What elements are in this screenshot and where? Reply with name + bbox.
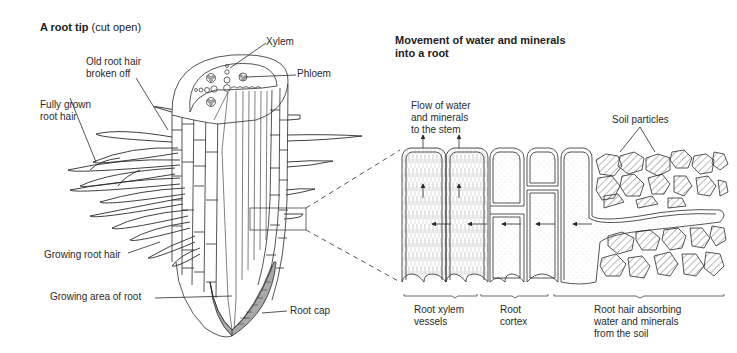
label-soil-particles: Soil particles <box>612 114 669 126</box>
xylem-vessels <box>402 135 488 282</box>
label-root-cap: Root cap <box>290 305 330 317</box>
label-xylem: Xylem <box>266 36 294 48</box>
label-flow: Flow of water and minerals to the stem <box>411 100 470 136</box>
label-phloem: Phloem <box>297 68 331 80</box>
root-hairs-right <box>284 115 362 219</box>
label-root-xylem-vessels: Root xylem vessels <box>414 304 464 328</box>
cortex-left <box>172 96 218 298</box>
zoom-dashed-top <box>306 150 400 208</box>
water-movement-drawing <box>402 127 728 298</box>
label-root-cortex: Root cortex <box>500 304 527 328</box>
label-growing-root-hair: Growing root hair <box>44 249 121 261</box>
label-fully-grown-root-hair: Fully grown root hair <box>40 99 91 123</box>
zoom-dashed-bottom <box>306 230 400 282</box>
panel-a-title: A root tip (cut open) <box>40 21 141 34</box>
cortex-cells <box>490 148 558 282</box>
panel-a-heading: A root tip <box>40 21 88 33</box>
panel-a-subtitle: (cut open) <box>92 21 142 33</box>
label-old-root-hair: Old root hair broken off <box>86 56 141 80</box>
panel-b-heading: Movement of water and minerals into a ro… <box>395 34 566 59</box>
root-cap <box>210 262 276 336</box>
soil-leader-lines <box>620 127 655 152</box>
panel-b-title: Movement of water and minerals into a ro… <box>395 21 566 60</box>
label-root-hair-absorbing: Root hair absorbing water and minerals f… <box>594 304 681 340</box>
label-growing-area: Growing area of root <box>50 291 141 303</box>
root-hairs-left <box>68 107 200 267</box>
brackets <box>404 294 724 298</box>
